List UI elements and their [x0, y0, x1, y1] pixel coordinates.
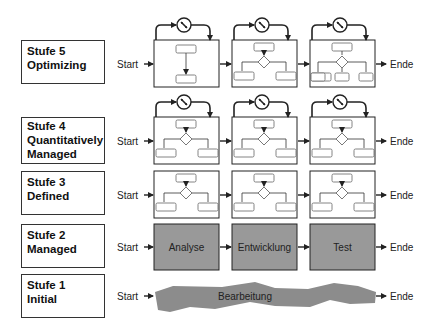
svg-text:Start: Start	[117, 136, 138, 147]
row-quantitatively-managed	[154, 95, 375, 164]
step-test: Test	[333, 242, 352, 253]
svg-text:Start: Start	[117, 291, 138, 302]
end-labels: Ende Ende Ende Ende Ende	[390, 59, 414, 302]
step-analyse: Analyse	[169, 242, 205, 253]
row-optimizing	[154, 18, 375, 87]
svg-text:Start: Start	[117, 242, 138, 253]
svg-text:Ende: Ende	[390, 291, 414, 302]
cmmi-diagram: Analyse Entwicklung Test Bearbeitung Sta…	[0, 0, 434, 332]
step-entwicklung: Entwicklung	[238, 242, 291, 253]
svg-text:Start: Start	[117, 59, 138, 70]
svg-text:Ende: Ende	[390, 136, 414, 147]
start-labels: Start Start Start Start Start	[117, 59, 138, 302]
step-bearbeitung: Bearbeitung	[218, 291, 272, 302]
row-managed: Analyse Entwicklung Test	[154, 224, 375, 270]
svg-text:Ende: Ende	[390, 242, 414, 253]
row-defined	[154, 171, 375, 218]
svg-text:Ende: Ende	[390, 59, 414, 70]
svg-text:Start: Start	[117, 190, 138, 201]
row-initial: Bearbeitung	[155, 282, 376, 312]
svg-text:Ende: Ende	[390, 190, 414, 201]
